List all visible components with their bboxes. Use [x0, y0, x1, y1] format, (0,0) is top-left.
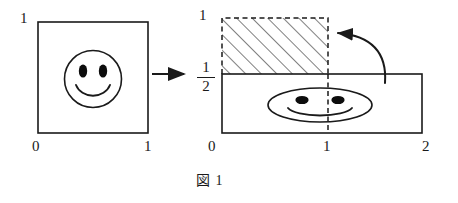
fraction-numerator: 1: [197, 60, 215, 77]
squashed-smiley-face: [268, 88, 372, 122]
smiley-head-circle: [65, 51, 122, 108]
figure-caption: 図 1: [196, 174, 224, 188]
right-panel-y-label-half: 1 2: [197, 60, 215, 95]
right-panel-y-label-1: 1: [199, 8, 207, 23]
left-panel-x-label-1: 1: [144, 139, 152, 154]
left-panel-x-label-0: 0: [32, 139, 40, 154]
squashed-smiley-left-eye: [295, 96, 308, 104]
right-panel-x-label-0: 0: [208, 139, 216, 154]
round-smiley-face: [65, 51, 122, 108]
figure-graphics: [0, 0, 458, 203]
hatched-region: [222, 18, 328, 74]
figure-container: 1 0 1 1 1 2 0 1 2 図 1: [0, 0, 458, 203]
left-panel-y-label-1: 1: [20, 11, 28, 26]
hatched-region-fill: [222, 18, 328, 74]
squashed-smiley-right-eye: [331, 96, 344, 104]
fraction-denominator: 2: [197, 78, 215, 95]
smiley-left-eye: [79, 64, 87, 77]
right-panel-x-label-1: 1: [323, 139, 331, 154]
smiley-right-eye: [99, 64, 107, 77]
squashed-smiley-head: [268, 88, 372, 122]
right-panel-x-label-2: 2: [422, 139, 430, 154]
